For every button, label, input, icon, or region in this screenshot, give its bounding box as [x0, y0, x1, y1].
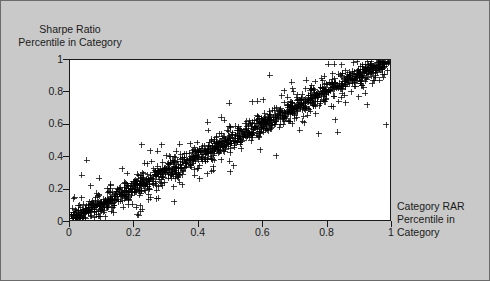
- x-axis-tick-labels: 00.20.40.60.81: [1, 227, 490, 241]
- y-tick-mark: [63, 91, 69, 92]
- plot-area: [69, 59, 391, 221]
- scatter-markers: [70, 60, 390, 220]
- x-tick-label: 0.8: [307, 227, 347, 238]
- y-tick-label: 0: [31, 216, 63, 227]
- y-tick-label: 0.8: [31, 86, 63, 97]
- y-tick-mark: [63, 189, 69, 190]
- x-tick-mark: [133, 221, 134, 227]
- x-tick-mark: [198, 221, 199, 227]
- y-tick-label: 0.4: [31, 151, 63, 162]
- x-tick-mark: [262, 221, 263, 227]
- y-tick-mark: [63, 124, 69, 125]
- scatter-series: [70, 60, 390, 220]
- x-tick-label: 0.2: [113, 227, 153, 238]
- x-tick-label: 0.4: [178, 227, 218, 238]
- x-tick-label: 1: [371, 227, 411, 238]
- x-tick-mark: [69, 221, 70, 227]
- x-tick-label: 0.6: [242, 227, 282, 238]
- x-tick-mark: [327, 221, 328, 227]
- scatter-plot-figure: Sharpe Ratio Percentile in Category Cate…: [0, 0, 490, 281]
- y-tick-mark: [63, 156, 69, 157]
- x-tick-mark: [391, 221, 392, 227]
- y-tick-label: 0.2: [31, 183, 63, 194]
- x-tick-label: 0: [49, 227, 89, 238]
- y-tick-label: 1: [31, 54, 63, 65]
- y-tick-label: 0.6: [31, 118, 63, 129]
- y-tick-mark: [63, 59, 69, 60]
- y-axis-title: Sharpe Ratio Percentile in Category: [5, 23, 135, 49]
